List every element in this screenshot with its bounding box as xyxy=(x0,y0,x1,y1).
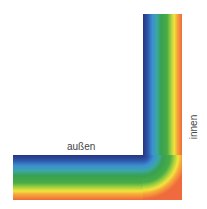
vertical-wall xyxy=(143,14,182,155)
wall-corner xyxy=(143,155,182,200)
wall-corner-thermal-diagram: außen innen xyxy=(0,0,207,209)
horizontal-wall xyxy=(13,155,143,200)
thermal-gradient-graphic xyxy=(0,0,207,209)
outside-label: außen xyxy=(67,142,95,152)
inside-label: innen xyxy=(189,115,199,139)
